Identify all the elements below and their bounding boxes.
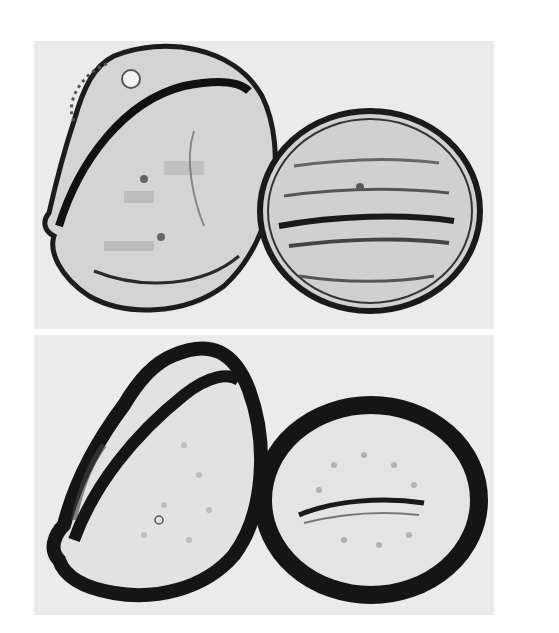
pollen-grains-top-image [34, 41, 494, 329]
pollen-grain-left-top [45, 46, 275, 310]
micrograph-panel-top [34, 41, 494, 329]
micrograph-panel-bottom [34, 335, 494, 615]
pollen-grains-bottom-image [34, 335, 494, 615]
pollen-grain-right-bottom [263, 405, 479, 595]
pollen-grain-right-top [260, 111, 480, 311]
